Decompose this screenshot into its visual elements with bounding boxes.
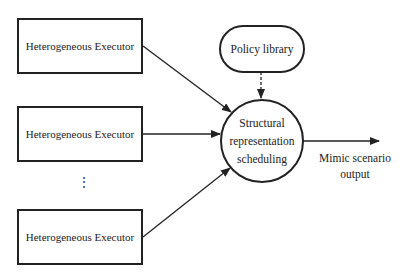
output-line-1: Mimic scenario: [310, 150, 400, 166]
scheduler-node: Structural representation scheduling: [220, 99, 304, 183]
scheduler-line-2: representation: [229, 132, 294, 150]
vertical-ellipsis: ⋮: [78, 180, 90, 185]
output-label: Mimic scenario output: [310, 150, 400, 182]
arrow-executor3-to-scheduler: [143, 168, 230, 237]
executor-label-3: Heterogeneous Executor: [26, 231, 134, 243]
executor-box-1: Heterogeneous Executor: [17, 18, 143, 74]
executor-label-2: Heterogeneous Executor: [26, 128, 134, 140]
scheduler-line-1: Structural: [239, 114, 284, 132]
output-line-2: output: [310, 166, 400, 182]
policy-library-label: Policy library: [231, 43, 294, 55]
executor-label-1: Heterogeneous Executor: [26, 40, 134, 52]
arrow-executor1-to-scheduler: [143, 46, 231, 112]
scheduler-line-3: scheduling: [237, 150, 287, 168]
executor-box-2: Heterogeneous Executor: [17, 106, 143, 162]
policy-library-node: Policy library: [219, 25, 305, 73]
executor-box-3: Heterogeneous Executor: [17, 209, 143, 265]
